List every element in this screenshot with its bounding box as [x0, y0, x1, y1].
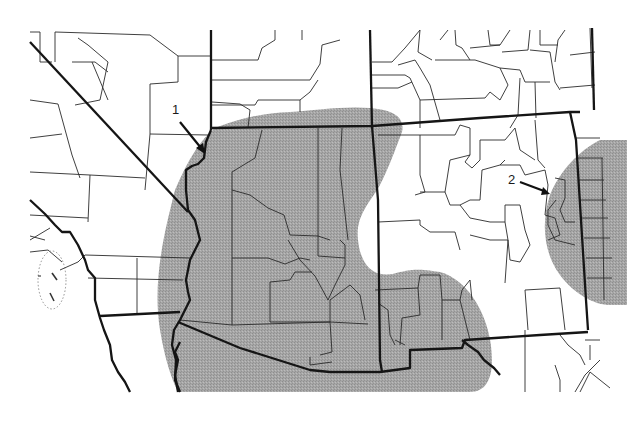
arrowhead-2-icon: [541, 187, 550, 195]
marker-2-label: 2: [508, 173, 515, 186]
marker-1-label: 1: [172, 103, 179, 116]
marker-2: [520, 182, 550, 195]
range-map: [0, 0, 627, 424]
channel-islands: [38, 251, 66, 309]
shaded-range-area: [158, 107, 627, 392]
arrow-2-icon: [520, 182, 544, 191]
marker-1: [180, 122, 205, 154]
